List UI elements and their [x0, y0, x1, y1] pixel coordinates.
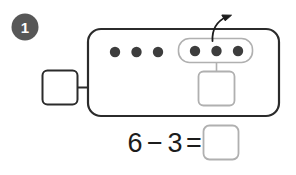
problem-illustration: 1: [0, 0, 296, 175]
worksheet-problem: 1: [0, 0, 296, 175]
equation-minuend: 6: [127, 128, 142, 158]
counter-dot: [110, 47, 120, 57]
equation-row: 6 − 3 =: [127, 128, 201, 158]
total-answer-box[interactable]: [43, 71, 78, 105]
taken-away-answer-box[interactable]: [199, 72, 235, 106]
problem-number-badge: 1: [12, 14, 39, 41]
equation-subtrahend: 3: [167, 128, 182, 158]
loose-counters-group: [110, 47, 163, 57]
equation-equals-sign: =: [186, 128, 202, 158]
badge-number-label: 1: [21, 19, 29, 36]
difference-answer-box[interactable]: [204, 126, 239, 160]
counter-dot: [131, 47, 141, 57]
counter-dot: [211, 46, 221, 56]
counter-dot: [233, 46, 243, 56]
counter-dot: [153, 47, 163, 57]
arrow-head: [222, 15, 232, 21]
grouped-counters-group: [190, 46, 243, 56]
equation-minus-operator: −: [147, 128, 163, 158]
counter-dot: [190, 46, 200, 56]
